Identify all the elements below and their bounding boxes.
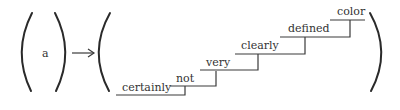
- right-arrow-icon: [72, 49, 94, 57]
- step-color: color: [330, 5, 366, 20]
- step-very: very: [200, 54, 258, 70]
- syntax-diagram: a certainly not very clearly defined: [0, 0, 400, 110]
- step-certainly: certainly: [116, 81, 185, 95]
- big-right-paren: [370, 13, 381, 91]
- step-clearly: clearly: [235, 37, 305, 54]
- step-not: not: [170, 71, 216, 86]
- svg-text:defined: defined: [288, 22, 330, 35]
- svg-text:certainly: certainly: [122, 81, 172, 94]
- right-paren: [55, 13, 65, 91]
- big-left-paren: [99, 13, 110, 91]
- left-paren: [22, 13, 32, 91]
- staircase: certainly not very clearly defined color: [116, 5, 366, 95]
- step-defined: defined: [280, 20, 350, 37]
- svg-text:clearly: clearly: [241, 39, 280, 52]
- svg-text:color: color: [337, 5, 366, 18]
- input-symbol: a: [42, 47, 49, 60]
- svg-text:very: very: [205, 56, 231, 69]
- svg-text:not: not: [176, 72, 195, 85]
